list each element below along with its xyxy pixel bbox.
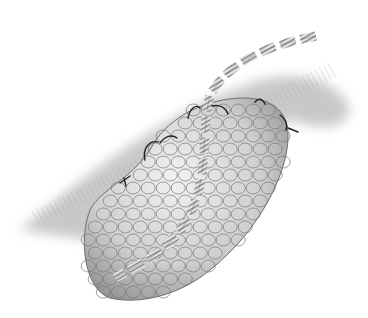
surgical-illustration: [0, 0, 368, 318]
suture: [288, 128, 298, 132]
